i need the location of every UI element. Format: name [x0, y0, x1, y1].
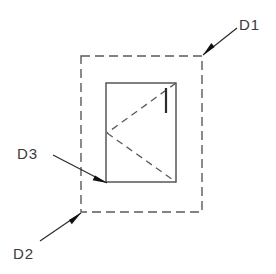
callout-d2: D2	[13, 213, 81, 262]
arrowhead-d3	[93, 176, 107, 183]
arrowhead-d1	[203, 43, 215, 55]
callout-label-d3: D3	[17, 145, 38, 162]
dashed-diagonal-lower-line	[107, 133, 176, 182]
diagram-canvas: D1 D2 D3	[0, 0, 276, 274]
callout-d3: D3	[17, 145, 107, 183]
diagram-svg: D1 D2 D3	[0, 0, 276, 274]
outer-dashed-rectangle	[81, 56, 202, 212]
arrowhead-d2	[69, 213, 81, 224]
callout-d1: D1	[203, 16, 260, 55]
callout-label-d2: D2	[13, 245, 34, 262]
callout-label-d1: D1	[239, 16, 260, 33]
